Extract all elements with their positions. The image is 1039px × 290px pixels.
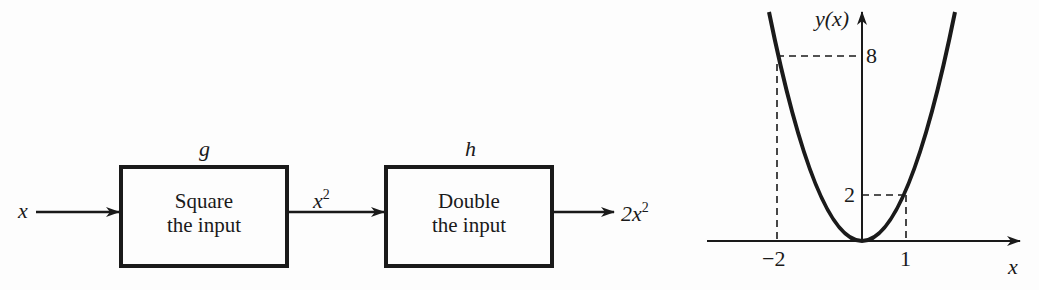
x-tick-1: 1 bbox=[900, 248, 911, 270]
x-tick-neg2: −2 bbox=[762, 248, 785, 270]
x-axis-label: x bbox=[1008, 256, 1018, 278]
intermediate-base: x bbox=[313, 188, 323, 213]
output-label: 2x2 bbox=[621, 201, 649, 225]
y-tick-8: 8 bbox=[866, 45, 877, 67]
output-base: 2x bbox=[621, 201, 642, 226]
guide-lines bbox=[777, 56, 906, 241]
intermediate-label: x2 bbox=[313, 188, 330, 212]
diagram-canvas bbox=[0, 0, 1039, 290]
block-g-line1: Square bbox=[121, 189, 287, 213]
block-g-line2: the input bbox=[121, 213, 287, 237]
output-exp: 2 bbox=[642, 200, 649, 215]
block-h-line2: the input bbox=[386, 213, 552, 237]
y-axis-label: y(x) bbox=[815, 8, 849, 30]
block-g-label: Square the input bbox=[121, 189, 287, 237]
block-h-name: h bbox=[465, 138, 476, 160]
block-h-label: Double the input bbox=[386, 189, 552, 237]
block-h-line1: Double bbox=[386, 189, 552, 213]
input-label: x bbox=[18, 200, 28, 222]
block-g-name: g bbox=[199, 138, 210, 160]
y-tick-2: 2 bbox=[844, 184, 855, 206]
intermediate-exp: 2 bbox=[323, 187, 330, 202]
